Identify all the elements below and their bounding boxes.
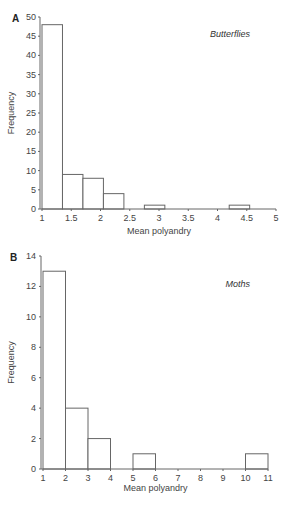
x-tick-label: 2 (63, 473, 68, 483)
x-tick-label: 4 (215, 213, 220, 223)
y-tick-label: 0 (31, 204, 36, 214)
histogram-bar (133, 454, 156, 469)
x-axis-label: Mean polyandry (127, 226, 192, 236)
x-tick-label: 4.5 (240, 213, 253, 223)
y-tick-label: 0 (31, 464, 36, 474)
x-tick-label: 3 (85, 473, 90, 483)
x-tick-label: 4 (108, 473, 113, 483)
x-tick-label: 2.5 (123, 213, 136, 223)
y-tick-label: 40 (26, 50, 36, 60)
x-tick-label: 1.5 (65, 213, 78, 223)
x-tick-label: 10 (240, 473, 250, 483)
histogram-bar (62, 174, 82, 209)
x-tick-label: 1 (40, 473, 45, 483)
histogram-bar (66, 408, 89, 469)
y-tick-label: 20 (26, 127, 36, 137)
x-axis-label: Mean polyandry (123, 483, 188, 493)
y-tick-label: 14 (26, 251, 36, 261)
y-tick-label: 15 (26, 146, 36, 156)
histogram-bar (42, 25, 62, 209)
y-axis-label: Frequency (6, 91, 16, 134)
histogram-bar (83, 178, 103, 209)
y-tick-label: 2 (31, 434, 36, 444)
x-tick-label: 9 (220, 473, 225, 483)
y-tick-label: 6 (31, 373, 36, 383)
panel-label: B (10, 252, 17, 263)
y-tick-label: 35 (26, 70, 36, 80)
x-tick-label: 6 (153, 473, 158, 483)
y-tick-label: 30 (26, 89, 36, 99)
histogram-bar (246, 454, 269, 469)
y-tick-label: 4 (31, 403, 36, 413)
y-tick-label: 8 (31, 342, 36, 352)
x-tick-label: 3 (156, 213, 161, 223)
histogram-bar (88, 439, 111, 469)
x-tick-label: 5 (273, 213, 278, 223)
y-tick-label: 12 (26, 281, 36, 291)
y-tick-label: 10 (26, 312, 36, 322)
series-label: Moths (225, 279, 250, 289)
x-tick-label: 11 (263, 473, 272, 483)
histogram-bar (229, 205, 249, 209)
histogram-bar (144, 205, 164, 209)
figure: 0510152025303540455011.522.533.544.55AMe… (0, 0, 285, 510)
x-tick-label: 3.5 (182, 213, 195, 223)
y-tick-label: 10 (26, 166, 36, 176)
histogram-bar (43, 271, 66, 469)
x-tick-label: 2 (98, 213, 103, 223)
panel-label: A (12, 13, 19, 24)
x-tick-label: 1 (39, 213, 44, 223)
series-label: Butterflies (210, 29, 251, 39)
x-tick-label: 5 (130, 473, 135, 483)
y-tick-label: 45 (26, 31, 36, 41)
y-tick-label: 50 (26, 12, 36, 22)
y-axis-label: Frequency (6, 341, 16, 384)
y-tick-label: 25 (26, 108, 36, 118)
y-tick-label: 5 (31, 185, 36, 195)
x-tick-label: 7 (175, 473, 180, 483)
histogram-bar (103, 194, 123, 209)
x-tick-label: 8 (198, 473, 203, 483)
